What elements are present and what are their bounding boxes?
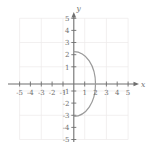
y-tick-label: -5 [63, 136, 70, 144]
x-tick-label: -2 [49, 89, 56, 97]
x-tick-label: -3 [38, 89, 45, 97]
graph-canvas: -5 -4 -3 -2 -1 1 2 3 4 5 5 4 3 2 1 -1 -2… [0, 0, 152, 148]
coordinate-graph: -5 -4 -3 -2 -1 1 2 3 4 5 5 4 3 2 1 -1 -2… [0, 0, 152, 148]
x-tick-label: -4 [27, 89, 34, 97]
y-tick-label: -3 [63, 112, 70, 120]
y-tick-label: 4 [65, 27, 70, 35]
y-tick-label: -2 [63, 100, 70, 108]
y-axis-label: y [75, 4, 81, 13]
y-tick-label: 3 [65, 39, 69, 47]
y-tick-label: 1 [65, 64, 69, 72]
x-tick-label: 5 [126, 89, 130, 97]
y-tick-label: 2 [65, 51, 69, 59]
x-tick-label: 4 [115, 89, 120, 97]
x-tick-label: 2 [93, 89, 97, 97]
y-tick-label: 5 [65, 15, 69, 23]
y-tick-label: -4 [63, 124, 70, 132]
x-tick-label: 3 [104, 89, 108, 97]
x-tick-label: 1 [82, 89, 86, 97]
x-tick-label: -5 [16, 89, 23, 97]
y-tick-label: -1 [63, 88, 70, 96]
graph-background [0, 0, 152, 148]
